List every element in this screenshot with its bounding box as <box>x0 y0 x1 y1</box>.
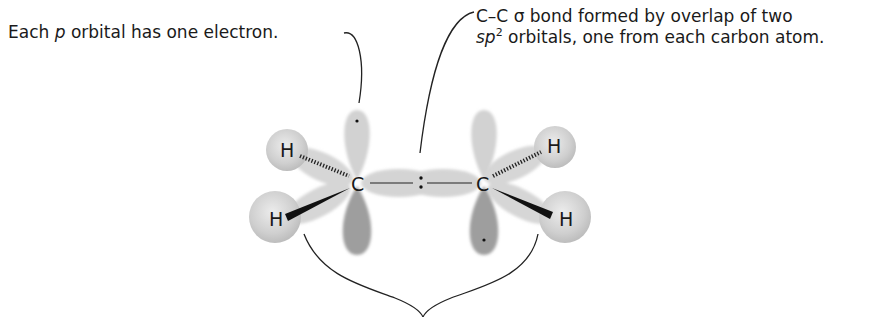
hydrogen-3: H <box>547 135 561 157</box>
leader-line-p-orbital <box>344 33 362 103</box>
ethene-orbital-diagram: C C H H H H <box>0 0 886 317</box>
electron-dot <box>482 238 485 241</box>
sp2-orbitals <box>280 138 559 232</box>
leader-line-sigma-bond <box>420 12 474 153</box>
hydrogen-1: H <box>280 139 294 161</box>
electron-dot <box>355 119 358 122</box>
hydrogen-4: H <box>559 208 573 230</box>
carbon-right: C <box>476 173 489 195</box>
carbon-left: C <box>351 173 364 195</box>
brace <box>304 234 538 317</box>
hydrogen-2: H <box>269 208 283 230</box>
